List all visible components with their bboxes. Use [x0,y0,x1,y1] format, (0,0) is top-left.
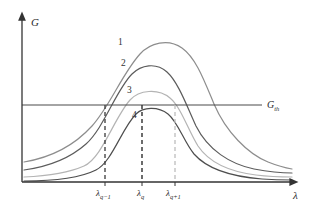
tick-label-lambda-q-minus-1: λq−1 [95,188,111,200]
tick-label-lambda-q-minus-1-subscript: q−1 [100,193,111,200]
curve-2 [24,66,292,173]
curve-4 [24,108,292,181]
curve-label-2: 2 [121,58,126,68]
tick-label-lambda-q-plus-1-subscript: q+1 [170,193,181,200]
threshold-label-subscript: th [274,105,279,112]
threshold-label-base: G [267,99,274,110]
x-axis-label: λ [292,189,298,201]
curve-1 [24,43,292,169]
y-axis-label: G [31,16,39,28]
tick-label-lambda-q-plus-1: λq+1 [165,188,181,200]
curve-label-4: 4 [132,110,137,120]
curve-label-3: 3 [127,85,132,95]
curve-3 [24,91,292,177]
tick-label-lambda-q: λq [136,188,145,200]
threshold-label: Gth [267,99,279,112]
figure-container: G λ Gth 1 2 3 4 λq−1 λq λq+1 [0,0,312,210]
tick-label-lambda-q-subscript: q [141,193,145,200]
figure-caption [0,203,312,210]
curve-label-1: 1 [118,37,123,47]
gain-vs-wavelength-diagram: G λ Gth 1 2 3 4 λq−1 λq λq+1 [0,0,312,210]
